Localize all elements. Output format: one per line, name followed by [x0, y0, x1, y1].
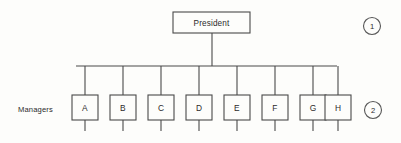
callout-marker-2[interactable]: 2 [365, 102, 382, 119]
node-manager-e[interactable]: E [224, 95, 250, 131]
callout-label-2: 2 [371, 106, 375, 115]
node-president[interactable]: President [173, 12, 250, 33]
callout-label-1: 1 [370, 22, 374, 31]
node-manager-g[interactable]: G [300, 95, 326, 131]
manager-label-h: H [335, 103, 341, 113]
manager-label-a: A [82, 103, 88, 113]
node-manager-b[interactable]: B [110, 95, 136, 131]
node-manager-d[interactable]: D [186, 95, 212, 131]
organization-chart-page: President A B C [0, 0, 401, 143]
node-manager-c[interactable]: C [148, 95, 174, 131]
org-chart-canvas: President A B C [0, 0, 401, 143]
president-label: President [194, 19, 231, 28]
manager-label-f: F [272, 103, 277, 113]
manager-label-b: B [120, 103, 126, 113]
node-manager-h[interactable]: H [325, 95, 351, 131]
callout-marker-1[interactable]: 1 [364, 18, 381, 35]
manager-label-c: C [158, 103, 164, 113]
manager-label-g: G [310, 103, 317, 113]
row-label-managers: Managers [18, 105, 53, 114]
node-manager-a[interactable]: A [72, 95, 98, 131]
manager-label-d: D [196, 103, 202, 113]
node-manager-f[interactable]: F [262, 95, 288, 131]
manager-label-e: E [234, 103, 240, 113]
